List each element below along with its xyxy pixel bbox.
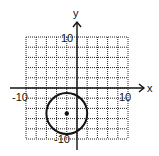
x-min-label: -10 bbox=[12, 91, 28, 103]
x-axis-label: x bbox=[147, 82, 153, 94]
coordinate-plane: x y -10 10 10 -10 bbox=[0, 0, 159, 156]
center-point bbox=[65, 111, 69, 115]
y-axis-label: y bbox=[73, 7, 79, 19]
y-max-label: 10 bbox=[61, 32, 73, 44]
y-min-label: -10 bbox=[54, 133, 70, 145]
x-max-label: 10 bbox=[119, 91, 131, 103]
